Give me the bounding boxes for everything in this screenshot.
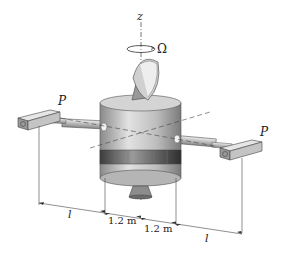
force-left-label: P (58, 94, 66, 108)
dim-1-2m-left: 1.2 m (108, 215, 137, 226)
dim-1-2m-right: 1.2 m (144, 223, 173, 234)
antenna-dish (132, 59, 159, 100)
nozzle (129, 186, 152, 199)
satellite-diagram (0, 0, 282, 253)
left-arm (18, 110, 110, 205)
cylinder-body (100, 95, 181, 186)
right-arm (172, 135, 262, 233)
dim-l-right: l (205, 232, 209, 245)
dim-l-left: l (68, 208, 72, 221)
z-axis-label: z (137, 10, 143, 23)
force-right-label: P (260, 125, 268, 139)
rotation-label: Ω (157, 42, 167, 56)
